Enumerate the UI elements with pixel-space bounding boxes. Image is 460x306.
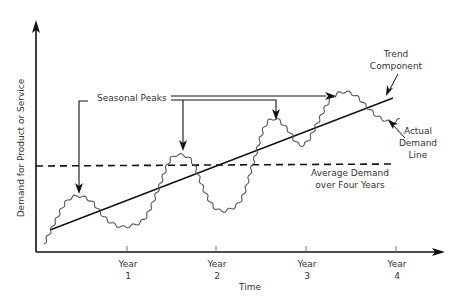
average-demand-line: [36, 164, 394, 166]
tick-label-year-1: Year: [117, 259, 137, 269]
actual-demand-label-line3: Line: [409, 150, 428, 160]
trend-component-label-line1: Trend: [383, 49, 409, 59]
average-demand-label-line2: over Four Years: [315, 180, 385, 190]
actual-demand-label-line2: Demand: [399, 138, 437, 148]
x-axis-title: Time: [238, 282, 261, 292]
y-axis-title: Demand for Product or Service: [16, 78, 26, 217]
tick-label-year-2: Year: [206, 259, 226, 269]
tick-number-2: 2: [214, 271, 220, 281]
x-ticks: [127, 246, 396, 252]
tick-number-1: 1: [125, 271, 131, 281]
x-axis: [36, 248, 445, 256]
tick-number-3: 3: [304, 271, 310, 281]
seasonal-peak-arrowheads: [75, 92, 336, 194]
trend-component-label-line2: Component: [370, 61, 423, 71]
tick-label-year-4: Year: [386, 259, 406, 269]
actual-demand-label-line1: Actual: [404, 126, 432, 136]
average-demand-label-line1: Average Demand: [311, 168, 389, 178]
seasonal-peaks-label: Seasonal Peaks: [97, 93, 167, 103]
tick-label-year-3: Year: [296, 259, 316, 269]
demand-diagram: Year 1 Year 2 Year 3 Year 4 Time Demand …: [0, 0, 460, 306]
arrow-right-icon: [325, 92, 336, 100]
y-axis: [32, 20, 40, 252]
trend-pointer: [389, 74, 398, 91]
seasonal-peaks-pointers: [79, 96, 326, 186]
tick-number-4: 4: [394, 271, 400, 281]
arrow-icon: [386, 85, 393, 96]
tick-labels: Year 1 Year 2 Year 3 Year 4: [117, 259, 406, 281]
